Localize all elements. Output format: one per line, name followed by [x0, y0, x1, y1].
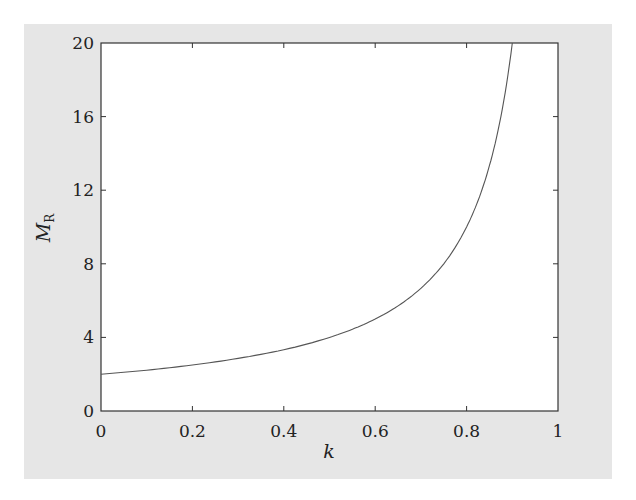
x-tick-labels: 00.20.40.60.81 [96, 421, 564, 441]
x-axis-label: k [323, 440, 335, 462]
y-tick-label: 4 [83, 327, 94, 347]
y-tick-label: 0 [83, 401, 94, 421]
x-tick-label: 0.8 [453, 421, 480, 441]
plot-area [101, 43, 558, 411]
x-tick-label: 0.2 [179, 421, 206, 441]
y-axis-label-subscript: R [43, 213, 57, 223]
x-tick-label: 0.4 [270, 421, 297, 441]
y-axis-label: MR [32, 213, 57, 243]
y-tick-label: 12 [72, 180, 94, 200]
y-tick-label: 16 [72, 107, 94, 127]
y-tick-labels: 048121620 [72, 33, 94, 421]
chart: 00.20.40.60.81 048121620 k MR [0, 0, 636, 500]
y-axis-label-main: M [32, 222, 54, 243]
y-tick-label: 20 [72, 33, 94, 53]
x-tick-label: 0.6 [362, 421, 389, 441]
x-tick-label: 1 [553, 421, 564, 441]
x-tick-label: 0 [96, 421, 107, 441]
y-tick-label: 8 [83, 254, 94, 274]
